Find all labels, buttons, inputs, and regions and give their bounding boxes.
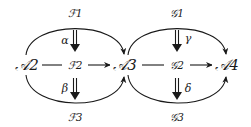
label-alpha: α xyxy=(61,34,69,47)
node-a4: 𝒜4 xyxy=(215,56,239,74)
label-f1: ℱ1 xyxy=(68,7,83,19)
commutative-diagram: 𝒜2 ℱ2 𝒜3 𝒢2 𝒜4 ℱ1 ℱ3 𝒢1 𝒢3 α β γ δ xyxy=(0,0,251,127)
label-f3: ℱ3 xyxy=(68,111,83,123)
node-a2: 𝒜2 xyxy=(15,56,39,74)
label-g1: 𝒢1 xyxy=(170,7,184,19)
node-a3: 𝒜3 xyxy=(113,56,137,74)
two-cell-beta-arrow xyxy=(70,78,80,100)
label-gamma: γ xyxy=(185,32,192,45)
two-cell-delta-arrow xyxy=(172,78,182,100)
label-delta: δ xyxy=(185,82,192,95)
two-cell-alpha-arrow xyxy=(70,30,80,52)
label-beta: β xyxy=(61,82,68,95)
two-cell-gamma-arrow xyxy=(172,30,182,52)
label-g3: 𝒢3 xyxy=(170,111,184,123)
node-f2: ℱ2 xyxy=(68,59,83,71)
node-g2: 𝒢2 xyxy=(170,59,184,71)
